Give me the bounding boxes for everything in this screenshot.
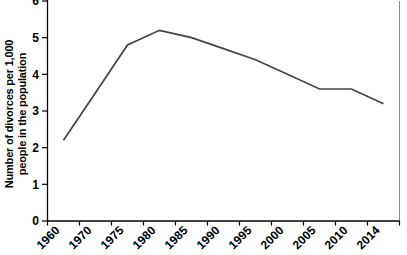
y-tick-label-0: 0 (32, 214, 39, 228)
y-tick-label-1: 1 (32, 178, 39, 192)
y-tick-label-6: 6 (32, 0, 39, 8)
x-tick-label-1975: 1975 (98, 223, 127, 252)
plot-area: 0123456196019701975198019851990199520002… (0, 0, 407, 255)
x-tick-label-1985: 1985 (162, 223, 191, 252)
x-tick-label-2000: 2000 (258, 223, 287, 252)
x-tick-label-2014: 2014 (354, 223, 383, 252)
y-axis-title-line1: Number of divorces per 1,000 (3, 40, 16, 188)
x-tick-label-1990: 1990 (194, 223, 223, 252)
x-tick-label-1970: 1970 (66, 223, 95, 252)
y-tick-label-3: 3 (32, 104, 39, 118)
x-tick-label-1995: 1995 (226, 223, 255, 252)
divorce-rate-line-chart: Number of divorces per 1,000 people in t… (0, 0, 407, 255)
y-tick-label-2: 2 (32, 141, 39, 155)
y-axis-title-line2: people in the population (16, 40, 29, 188)
y-axis-title: Number of divorces per 1,000 people in t… (3, 40, 29, 188)
divorce-rate-line (64, 30, 384, 140)
x-tick-label-2010: 2010 (322, 223, 351, 252)
y-tick-label-5: 5 (32, 31, 39, 45)
x-tick-label-1980: 1980 (130, 223, 159, 252)
y-tick-label-4: 4 (32, 68, 39, 82)
x-tick-label-2005: 2005 (290, 223, 319, 252)
